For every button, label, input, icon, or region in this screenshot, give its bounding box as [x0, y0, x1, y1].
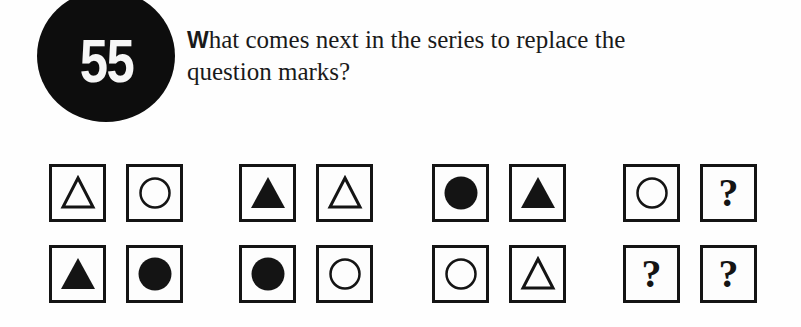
puzzle-cell-group1-2	[126, 164, 183, 222]
circle-filled-icon	[250, 256, 286, 292]
puzzle-cell-group3-2	[509, 164, 566, 222]
triangle-outline-icon	[60, 175, 96, 211]
question-number-badge: 55	[37, 0, 175, 122]
question-initial-letter: W	[187, 27, 209, 53]
puzzle-cell-group2-4	[316, 245, 373, 303]
question-line-2: question marks?	[187, 58, 350, 85]
question-mark-icon: ?	[719, 254, 739, 294]
puzzle-cell-group3-1	[432, 164, 489, 222]
puzzle-cell-group4-4: ?	[700, 245, 757, 303]
question-line-1: hat comes next in the series to replace …	[209, 26, 626, 53]
triangle-outline-icon	[327, 175, 363, 211]
circle-outline-icon	[327, 256, 363, 292]
puzzle-cell-group1-1	[49, 164, 106, 222]
circle-outline-icon	[634, 175, 670, 211]
puzzle-cell-group1-4	[126, 245, 183, 303]
puzzle-cell-group1-3	[49, 245, 106, 303]
triangle-filled-icon	[520, 175, 556, 211]
puzzle-cell-group3-4	[509, 245, 566, 303]
circle-outline-icon	[137, 175, 173, 211]
question-text: What comes next in the series to replace…	[187, 24, 787, 87]
circle-filled-icon	[443, 175, 479, 211]
puzzle-cell-group2-1	[239, 164, 296, 222]
puzzle-cell-group4-1	[623, 164, 680, 222]
triangle-outline-icon	[520, 256, 556, 292]
question-mark-icon: ?	[719, 173, 739, 213]
puzzle-cell-group2-2	[316, 164, 373, 222]
puzzle-cell-group3-3	[432, 245, 489, 303]
puzzle-cell-group4-2: ?	[700, 164, 757, 222]
puzzle-cell-group4-3: ?	[623, 245, 680, 303]
triangle-filled-icon	[60, 256, 96, 292]
triangle-filled-icon	[250, 175, 286, 211]
circle-filled-icon	[137, 256, 173, 292]
question-number: 55	[79, 25, 132, 96]
circle-outline-icon	[443, 256, 479, 292]
puzzle-cell-group2-3	[239, 245, 296, 303]
question-mark-icon: ?	[642, 254, 662, 294]
